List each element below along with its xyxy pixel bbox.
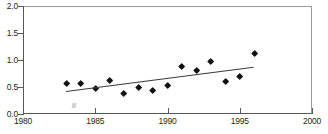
plot-area: [23, 6, 312, 114]
y-axis-label: 1.0: [0, 56, 18, 65]
x-tick-1990: [168, 108, 169, 114]
y-tick-1.5: [18, 33, 24, 34]
x-tick-2000: [312, 108, 313, 114]
chart-title-cropped: [30, 0, 250, 2]
x-tick-1995: [240, 108, 241, 114]
x-tick-1985: [95, 108, 96, 114]
x-axis-label: 1995: [220, 117, 260, 126]
y-tick-2.0: [18, 6, 24, 7]
y-axis-labels: 0.00.51.01.52.0: [0, 0, 18, 134]
x-axis-label: 1985: [75, 117, 115, 126]
y-axis-label: 1.5: [0, 29, 18, 38]
y-tick-0.5: [18, 87, 24, 88]
y-axis-label: 2.0: [0, 2, 18, 11]
scatter-chart: 0.00.51.01.52.0 19801985199019952000: [0, 0, 328, 134]
x-axis-label: 1990: [148, 117, 188, 126]
y-axis-label: 0.5: [0, 83, 18, 92]
y-tick-0.0: [18, 114, 24, 115]
y-tick-1.0: [18, 60, 24, 61]
x-tick-1980: [23, 108, 24, 114]
x-axis-label: 1980: [3, 117, 43, 126]
x-axis-label: 2000: [292, 117, 328, 126]
